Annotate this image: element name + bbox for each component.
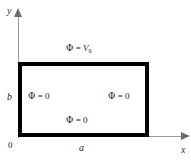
y-axis-arrow-icon [14,8,22,17]
boundary-value-figure: y x Φ = V0 Φ = 0 Φ = 0 Φ = 0 b a 0 [0,0,191,163]
equals-sign-left: = [38,91,43,101]
equals-sign-bottom: = [76,115,81,125]
y-axis-label: y [7,6,11,16]
boundary-condition-bottom: Φ = 0 [66,116,87,125]
phi-symbol-right: Φ [108,91,115,101]
boundary-wall-bottom [18,133,149,137]
phi-symbol-top: Φ [66,43,73,53]
boundary-wall-right [145,62,149,137]
width-dimension-label: a [79,143,84,153]
phi-symbol-bottom: Φ [66,115,73,125]
boundary-wall-left [18,62,22,137]
potential-value-left: 0 [45,91,50,101]
origin-label: 0 [8,141,13,150]
potential-value-right: 0 [125,91,130,101]
x-axis-label: x [181,145,185,155]
boundary-condition-top: Φ = V0 [66,44,91,53]
boundary-wall-top [18,62,149,66]
equals-sign-top: = [76,43,81,53]
equals-sign-right: = [118,91,123,101]
phi-symbol-left: Φ [28,91,35,101]
potential-value-bottom: 0 [83,115,88,125]
boundary-condition-right: Φ = 0 [108,92,129,101]
x-axis-arrow-icon [181,132,190,140]
potential-subscript-top: 0 [88,48,91,54]
height-dimension-label: b [7,92,12,102]
boundary-condition-left: Φ = 0 [28,92,49,101]
